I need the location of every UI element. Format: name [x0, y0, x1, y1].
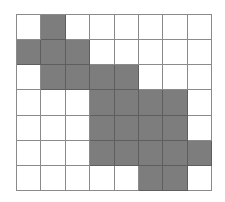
grid-cell-filled	[163, 141, 187, 166]
grid-cell-empty	[17, 15, 41, 40]
grid-cell-empty	[17, 166, 41, 191]
grid-cell-filled	[41, 65, 65, 90]
grid-cell-filled	[139, 116, 163, 141]
grid-cell-empty	[66, 116, 90, 141]
grid-cell-filled	[139, 141, 163, 166]
grid-cell-empty	[17, 116, 41, 141]
grid-cell-empty	[41, 141, 65, 166]
grid-cell-filled	[139, 166, 163, 191]
grid-cell-empty	[139, 40, 163, 65]
grid-cell-empty	[115, 166, 139, 191]
grid-cell-filled	[115, 90, 139, 115]
grid-cell-filled	[115, 116, 139, 141]
grid-cell-empty	[17, 65, 41, 90]
grid-cell-empty	[188, 65, 212, 90]
grid-cell-filled	[66, 40, 90, 65]
grid-cell-empty	[188, 90, 212, 115]
grid-cell-empty	[41, 116, 65, 141]
grid-cell-empty	[17, 141, 41, 166]
grid-cell-empty	[139, 65, 163, 90]
grid-cell-empty	[90, 15, 114, 40]
grid-cell-empty	[66, 15, 90, 40]
grid-cell-filled	[163, 90, 187, 115]
grid-cell-filled	[90, 90, 114, 115]
grid-cell-empty	[90, 40, 114, 65]
grid-cell-empty	[188, 116, 212, 141]
grid-cell-empty	[188, 15, 212, 40]
grid-cell-filled	[163, 166, 187, 191]
grid-cell-empty	[66, 141, 90, 166]
grid-cell-empty	[66, 90, 90, 115]
grid-cell-empty	[115, 40, 139, 65]
grid-cell-filled	[139, 90, 163, 115]
grid-cell-empty	[139, 15, 163, 40]
grid-cell-empty	[17, 90, 41, 115]
grid-cell-filled	[41, 15, 65, 40]
grid-cell-empty	[90, 166, 114, 191]
grid-cell-filled	[41, 40, 65, 65]
grid-cell-filled	[90, 116, 114, 141]
grid-cell-filled	[163, 116, 187, 141]
grid-cell-empty	[188, 40, 212, 65]
grid-cell-empty	[115, 15, 139, 40]
grid-cell-empty	[41, 166, 65, 191]
grid-cell-empty	[163, 40, 187, 65]
grid-cell-filled	[115, 141, 139, 166]
grid-cell-empty	[163, 15, 187, 40]
grid-cell-filled	[188, 141, 212, 166]
grid-cell-empty	[163, 65, 187, 90]
grid-cell-filled	[17, 40, 41, 65]
grid-cell-empty	[66, 166, 90, 191]
grid-cell-empty	[188, 166, 212, 191]
shaded-grid-diagram	[16, 14, 212, 191]
grid-cell-empty	[41, 90, 65, 115]
grid-cell-filled	[90, 65, 114, 90]
grid-cell-filled	[90, 141, 114, 166]
grid-cell-filled	[66, 65, 90, 90]
grid-cell-filled	[115, 65, 139, 90]
